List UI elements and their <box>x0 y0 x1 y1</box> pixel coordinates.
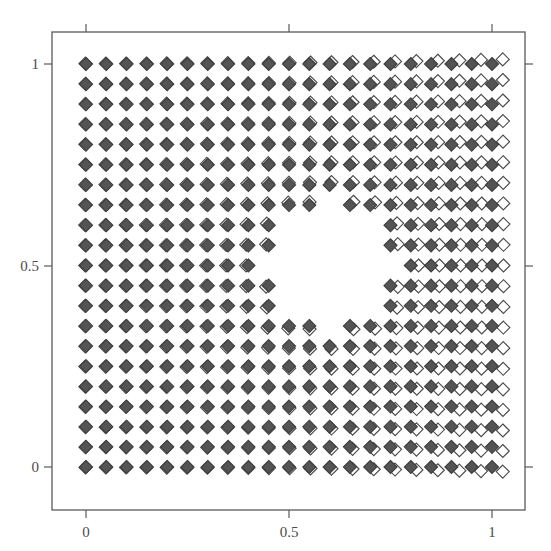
marker-filled <box>140 78 153 91</box>
marker-filled <box>181 219 194 232</box>
marker-filled <box>120 279 133 292</box>
marker-filled <box>181 420 194 433</box>
marker-filled <box>201 461 214 474</box>
marker-open <box>497 362 510 375</box>
marker-filled <box>445 259 458 272</box>
marker-filled <box>161 178 174 191</box>
marker-filled <box>80 400 93 413</box>
marker-filled <box>80 239 93 252</box>
marker-filled <box>425 259 438 272</box>
marker-filled <box>100 78 113 91</box>
marker-filled <box>161 58 174 71</box>
marker-filled <box>181 78 194 91</box>
marker-filled <box>80 360 93 373</box>
marker-filled <box>486 239 499 252</box>
marker-filled <box>100 239 113 252</box>
marker-filled <box>201 259 214 272</box>
marker-open <box>497 342 510 355</box>
marker-filled <box>100 118 113 131</box>
marker-filled <box>100 158 113 171</box>
marker-filled <box>120 259 133 272</box>
marker-filled <box>120 239 133 252</box>
marker-filled <box>242 400 255 413</box>
marker-filled <box>486 259 499 272</box>
marker-filled <box>161 340 174 353</box>
marker-filled <box>120 420 133 433</box>
x-tick-label-1: 0.5 <box>280 524 299 541</box>
marker-filled <box>181 118 194 131</box>
x-tick-label-2: 1 <box>488 524 496 541</box>
marker-filled <box>120 98 133 111</box>
marker-filled <box>100 219 113 232</box>
marker-filled <box>242 380 255 393</box>
marker-filled <box>465 299 478 312</box>
marker-filled <box>242 98 255 111</box>
marker-filled <box>242 440 255 453</box>
marker-filled <box>80 178 93 191</box>
marker-filled <box>486 279 499 292</box>
marker-open <box>497 321 510 334</box>
marker-filled <box>201 78 214 91</box>
marker-filled <box>181 158 194 171</box>
marker-filled <box>242 58 255 71</box>
marker-filled <box>161 440 174 453</box>
marker-filled <box>465 219 478 232</box>
marker-filled <box>486 319 499 332</box>
marker-open <box>475 342 488 355</box>
marker-filled <box>140 118 153 131</box>
marker-filled <box>181 178 194 191</box>
marker-filled <box>262 58 275 71</box>
marker-filled <box>161 239 174 252</box>
marker-filled <box>100 360 113 373</box>
marker-filled <box>201 400 214 413</box>
marker-filled <box>100 420 113 433</box>
marker-filled <box>161 279 174 292</box>
marker-filled <box>100 199 113 212</box>
x-tick-label-0: 0 <box>82 524 90 541</box>
marker-filled <box>242 138 255 151</box>
marker-open <box>496 115 509 128</box>
marker-filled <box>222 440 235 453</box>
scatter-plot-figure: 00.5100.51 <box>0 0 551 551</box>
marker-filled <box>465 239 478 252</box>
marker-filled <box>262 118 275 131</box>
marker-filled <box>140 259 153 272</box>
marker-filled <box>140 400 153 413</box>
marker-filled <box>222 380 235 393</box>
marker-filled <box>181 400 194 413</box>
marker-filled <box>486 118 499 131</box>
marker-filled <box>181 360 194 373</box>
marker-filled <box>465 158 478 171</box>
marker-filled <box>80 58 93 71</box>
marker-filled <box>100 259 113 272</box>
marker-filled <box>161 138 174 151</box>
marker-filled <box>140 199 153 212</box>
marker-filled <box>201 58 214 71</box>
marker-filled <box>80 380 93 393</box>
marker-filled <box>201 440 214 453</box>
marker-open <box>497 135 510 148</box>
marker-filled <box>80 158 93 171</box>
marker-filled <box>140 239 153 252</box>
marker-filled <box>181 380 194 393</box>
marker-open <box>497 383 510 396</box>
marker-filled <box>222 400 235 413</box>
marker-filled <box>181 319 194 332</box>
marker-filled <box>80 461 93 474</box>
marker-filled <box>120 400 133 413</box>
marker-filled <box>181 461 194 474</box>
marker-filled <box>100 299 113 312</box>
marker-filled <box>465 319 478 332</box>
marker-filled <box>120 461 133 474</box>
marker-filled <box>120 380 133 393</box>
marker-filled <box>181 58 194 71</box>
marker-filled <box>120 440 133 453</box>
marker-filled <box>262 78 275 91</box>
marker-filled <box>181 98 194 111</box>
marker-filled <box>100 98 113 111</box>
marker-open <box>497 300 510 313</box>
marker-filled <box>161 199 174 212</box>
marker-filled <box>80 219 93 232</box>
marker-filled <box>120 58 133 71</box>
y-tick-label-0: 0 <box>32 459 40 476</box>
